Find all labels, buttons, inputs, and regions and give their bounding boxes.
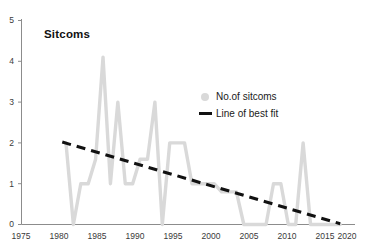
x-tick-label-1995: 1995 [157,232,189,241]
y-tick-label-5: 5 [0,16,14,25]
chart-legend: No.of sitcoms Line of best fit [196,88,346,122]
y-tick-label-3: 3 [0,98,14,107]
y-axis-ticks [18,21,22,225]
y-tick-label-4: 4 [0,57,14,66]
y-tick-label-0: 0 [0,220,14,229]
x-tick-label-1990: 1990 [119,232,151,241]
x-tick-label-2010: 2010 [271,232,303,241]
y-tick-label-2: 2 [0,139,14,148]
legend-item-no-of-sitcoms: No.of sitcoms [196,88,346,105]
chart-title: Sitcoms [44,28,90,40]
x-tick-label-1985: 1985 [81,232,113,241]
x-tick-label-2005: 2005 [233,232,265,241]
x-tick-label-2020: 2020 [331,232,363,241]
legend-dot-icon [196,93,214,101]
series-no-of-sitcoms [66,57,340,224]
legend-dash-icon [196,112,214,115]
y-tick-label-1: 1 [0,180,14,189]
legend-label-line-of-best-fit: Line of best fit [214,108,278,119]
x-tick-label-2000: 2000 [195,232,227,241]
x-tick-label-1980: 1980 [43,232,75,241]
x-tick-label-1975: 1975 [5,232,37,241]
legend-label-no-of-sitcoms: No.of sitcoms [214,91,277,102]
legend-item-line-of-best-fit: Line of best fit [196,105,346,122]
sitcoms-chart: Sitcoms 5 4 3 2 1 0 1975 1980 1985 1990 … [0,0,367,249]
